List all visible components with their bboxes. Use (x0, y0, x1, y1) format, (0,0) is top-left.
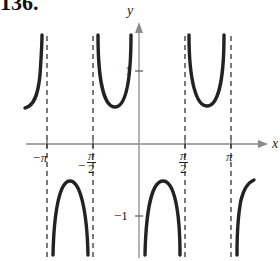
frac-denominator: 2 (87, 163, 96, 175)
branch-1 (25, 35, 42, 108)
x-axis-arrow-icon (258, 140, 268, 148)
tick-label-pi: π (226, 149, 233, 165)
tick-label-neg-pi: −π (32, 150, 47, 166)
frac-denominator: 2 (179, 163, 188, 175)
tick-label-neg-half-pi-sign: − (78, 158, 85, 174)
y-axis-label: y (127, 3, 133, 19)
tick-label-y-neg-1: −1 (114, 208, 128, 224)
tick-label-neg-half-pi: π 2 (87, 150, 96, 175)
x-axis (26, 140, 268, 148)
branch-5 (189, 35, 224, 106)
branch-2 (53, 181, 88, 255)
branch-4 (145, 181, 180, 255)
branch-6 (237, 180, 254, 255)
tick-label-y-pos-1: 1 (125, 63, 132, 79)
graph-canvas (0, 0, 280, 261)
x-axis-label: x (272, 136, 278, 152)
tick-label-half-pi: π 2 (179, 150, 188, 175)
y-axis (135, 22, 143, 258)
y-axis-arrow-icon (135, 22, 143, 33)
